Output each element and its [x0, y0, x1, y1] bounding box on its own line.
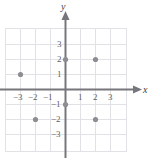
x-tick-label-3: 3: [108, 93, 113, 102]
y-tick-label-neg3: −3: [51, 130, 61, 139]
x-tick-label-neg2: −2: [28, 93, 38, 102]
x-tick-label-1: 1: [78, 93, 83, 102]
x-tick-label-neg3: −3: [13, 93, 23, 102]
coordinate-plane-figure: −3 −2 −1 1 2 3 3 2 1 −1 −2 −3 y x: [0, 0, 150, 162]
data-point: [63, 102, 68, 107]
y-axis-label: y: [61, 2, 65, 12]
y-tick-label-neg1: −1: [51, 100, 61, 109]
y-axis: [62, 11, 70, 158]
x-tick-label-2: 2: [93, 93, 98, 102]
data-point: [93, 57, 98, 62]
y-tick-label-2: 2: [57, 55, 62, 64]
x-axis-label: x: [143, 85, 147, 95]
data-point: [63, 57, 68, 62]
data-point: [93, 117, 98, 122]
y-tick-label-3: 3: [57, 40, 62, 49]
y-tick-label-neg2: −2: [51, 115, 61, 124]
coordinate-plane-svg: [0, 0, 150, 162]
data-point: [18, 72, 23, 77]
y-tick-label-1: 1: [57, 70, 62, 79]
data-point: [33, 117, 38, 122]
